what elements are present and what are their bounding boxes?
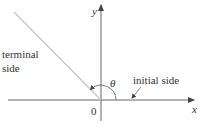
angle-diagram: y x 0 θ terminal side initial side: [0, 0, 204, 130]
y-axis-label: y: [91, 5, 97, 17]
terminal-label-line1: terminal: [2, 48, 39, 60]
origin-label: 0: [91, 105, 97, 117]
theta-label: θ: [110, 77, 116, 89]
initial-side-pointer: [132, 87, 141, 98]
terminal-label-line2: side: [2, 62, 20, 74]
initial-side-label: initial side: [133, 74, 179, 86]
diagram-svg: y x 0 θ terminal side initial side: [0, 0, 204, 130]
x-axis-label: x: [191, 103, 197, 115]
